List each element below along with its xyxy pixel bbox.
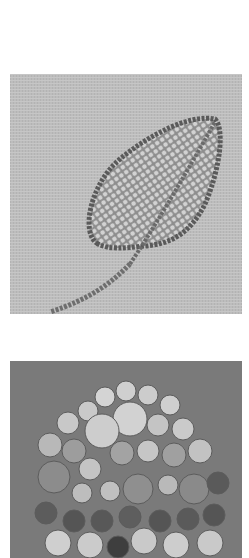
beaded-leaf-image (10, 74, 242, 314)
photo-flower-beads (10, 361, 242, 558)
flower-beads-image (10, 361, 242, 558)
photo-beaded-leaf (10, 74, 242, 314)
